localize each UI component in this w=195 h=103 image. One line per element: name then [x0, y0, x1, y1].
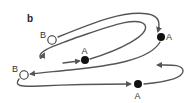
node-label: A [166, 32, 172, 42]
node-label: A [82, 46, 88, 56]
trajectory-bottom-b-to-a [17, 79, 130, 86]
node-a-right: A [157, 32, 172, 42]
trajectory-bottom-a-loop [144, 65, 183, 84]
node-label: A [135, 91, 141, 101]
panel-label: b [27, 13, 33, 24]
node-label: B [12, 64, 18, 74]
node-label: B [40, 30, 46, 40]
node-b-bottom: B [12, 64, 28, 79]
node-a-inner: A [81, 46, 89, 64]
trajectory-diagram: b B A A B A [0, 0, 195, 103]
trajectory-into-inner-a [63, 61, 79, 63]
node-b-top: B [40, 30, 56, 44]
node-a-bottom: A [134, 80, 142, 101]
trajectory-outer [58, 13, 159, 37]
